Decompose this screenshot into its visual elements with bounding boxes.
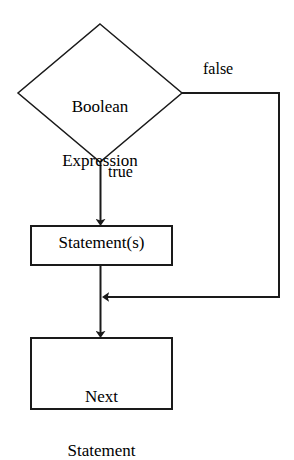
- process-node-label: Statement(s): [31, 234, 172, 252]
- edge-label-false: false: [203, 60, 233, 78]
- terminal-node-label: Next Statement: [31, 352, 172, 460]
- decision-label-line-2: Expression: [20, 152, 180, 170]
- terminal-label-line-2: Statement: [31, 442, 172, 460]
- edge-label-true: true: [108, 163, 133, 181]
- terminal-label-line-1: Next: [31, 388, 172, 406]
- decision-node-label: Boolean Expression: [20, 62, 180, 206]
- decision-label-line-1: Boolean: [20, 98, 180, 116]
